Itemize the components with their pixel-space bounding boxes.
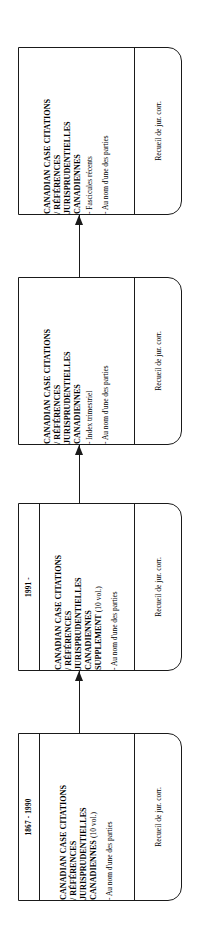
node-title: CANADIAN CASE CITATIONS / RÉFÉRENCES JUR…	[54, 504, 104, 670]
node-footer: Recueil de jur. corr.	[135, 734, 181, 900]
node-detail-item: - Au nom d'une des parties	[105, 734, 115, 900]
node-detail-list: - Fascicules récents - Au nom d'une des …	[84, 48, 110, 214]
node-date-strip: 1991 -	[19, 504, 40, 670]
node-detail-list: - Index trimestriel - Au nom d'une des p…	[84, 278, 110, 444]
node-footer: Recueil de jur. corr.	[135, 48, 181, 214]
node-detail-item: - Index trimestriel	[84, 278, 94, 444]
flowchart-diagram: CANADIAN CASE CITATIONS / RÉFÉRENCES JUR…	[0, 0, 197, 946]
node-footer-label: Recueil de jur. corr.	[154, 331, 163, 391]
flow-node-supplement-1991[interactable]: 1991 - CANADIAN CASE CITATIONS / RÉFÉREN…	[18, 503, 182, 671]
node-footer-label: Recueil de jur. corr.	[154, 101, 163, 161]
node-detail-list: - Au nom d'une des parties	[110, 504, 120, 670]
connector-arrowhead-icon	[75, 445, 83, 455]
flow-node-base-1867-1990[interactable]: 1867 - 1990 CANADIAN CASE CITATIONS / RÉ…	[18, 733, 182, 901]
connector-arrowhead-icon	[75, 671, 83, 681]
flow-node-quarterly-index[interactable]: CANADIAN CASE CITATIONS / RÉFÉRENCES JUR…	[18, 277, 182, 445]
node-body: CANADIAN CASE CITATIONS / RÉFÉRENCES JUR…	[19, 48, 135, 214]
node-title: CANADIAN CASE CITATIONS / RÉFÉRENCES JUR…	[43, 278, 83, 444]
node-body: CANADIAN CASE CITATIONS / RÉFÉRENCES JUR…	[19, 278, 135, 444]
node-body: CANADIAN CASE CITATIONS / RÉFÉRENCES JUR…	[40, 734, 135, 900]
node-title: CANADIAN CASE CITATIONS / RÉFÉRENCES JUR…	[43, 48, 83, 214]
node-detail-item: - Au nom d'une des parties	[100, 48, 110, 214]
node-title: CANADIAN CASE CITATIONS / RÉFÉRENCES JUR…	[59, 734, 99, 900]
node-footer-label: Recueil de jur. corr.	[154, 787, 163, 847]
node-detail-list: - Au nom d'une des parties	[105, 734, 115, 900]
node-footer: Recueil de jur. corr.	[135, 504, 181, 670]
node-date-label: 1867 - 1990	[25, 799, 33, 836]
node-detail-item: - Au nom d'une des parties	[100, 278, 110, 444]
node-body: CANADIAN CASE CITATIONS / RÉFÉRENCES JUR…	[40, 504, 135, 670]
node-date-label: 1991 -	[25, 577, 33, 597]
node-footer: Recueil de jur. corr.	[135, 278, 181, 444]
node-detail-item: - Au nom d'une des parties	[110, 504, 120, 670]
node-date-strip: 1867 - 1990	[19, 734, 40, 900]
node-footer-label: Recueil de jur. corr.	[154, 557, 163, 617]
node-detail-item: - Fascicules récents	[84, 48, 94, 214]
flow-node-recent-issues[interactable]: CANADIAN CASE CITATIONS / RÉFÉRENCES JUR…	[18, 47, 182, 215]
connector-arrowhead-icon	[75, 215, 83, 225]
